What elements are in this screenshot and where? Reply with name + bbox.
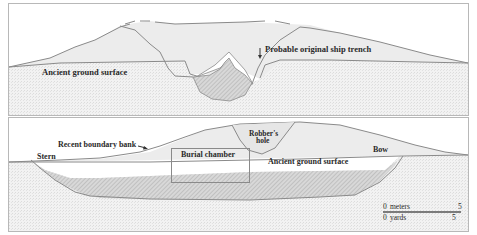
- bottom-panel-longitudinal-section: Recent boundary bank Stern Burial chambe…: [9, 118, 469, 232]
- scale-meters-end: 5: [458, 202, 462, 211]
- scale-yards-label: yards: [390, 213, 406, 222]
- bow-label: Bow: [373, 145, 388, 154]
- bottom-ancient-ground-label: Ancient ground surface: [268, 157, 349, 166]
- scale-meters-start: 0: [383, 202, 387, 211]
- scale-yards-end: 5: [452, 213, 456, 222]
- ship-trench-label: Probable original ship trench: [265, 44, 371, 54]
- stern-label: Stern: [37, 152, 56, 161]
- ship-burial-cross-sections: Ancient ground surface Probable original…: [0, 0, 477, 235]
- scale-meters-label: meters: [390, 202, 410, 211]
- burial-chamber-label: Burial chamber: [181, 150, 235, 159]
- scale-yards-start: 0: [383, 213, 387, 222]
- boundary-bank-label: Recent boundary bank: [58, 140, 137, 149]
- top-ancient-ground-label: Ancient ground surface: [42, 67, 128, 77]
- robbers-hole-label-line2: hole: [256, 136, 270, 145]
- top-panel-transverse-section: Ancient ground surface Probable original…: [9, 4, 469, 116]
